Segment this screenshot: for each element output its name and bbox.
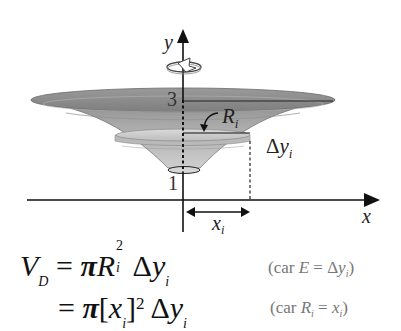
x-axis-label: x — [362, 205, 371, 228]
note-open: (car — [270, 298, 301, 317]
radius-scripts: 2i — [115, 256, 125, 276]
pi-symbol: π — [82, 291, 98, 324]
pi-symbol: π — [80, 249, 96, 282]
y-var: y — [152, 249, 165, 282]
delta-symbol: Δ — [266, 134, 280, 158]
bracket-close: ] — [126, 291, 136, 324]
tick-label-1: 1 — [168, 172, 178, 195]
thickness-label: Δyi — [266, 134, 292, 162]
y-axis-arrow-icon — [177, 29, 189, 43]
y-axis-label: y — [164, 31, 173, 54]
solid-of-revolution-figure: y x 3 1 Ri Δyi xi VD = πR2i Δyi (car E =… — [0, 0, 401, 331]
note-close: ) — [342, 298, 348, 317]
note-close: ) — [348, 258, 354, 277]
delta-symbol: Δ — [150, 291, 169, 324]
y-sub: i — [183, 316, 187, 331]
equation-line-2: = π[xi]2 Δyi — [58, 291, 187, 331]
note-var: E — [299, 258, 309, 277]
bracket-open: [ — [99, 291, 109, 324]
y-var: y — [170, 291, 183, 324]
radius-sup: 2 — [116, 238, 123, 254]
note-var: R — [301, 298, 311, 317]
thickness-sub: i — [289, 146, 293, 161]
volume-sub: D — [38, 274, 48, 289]
radius-label: Ri — [222, 104, 238, 132]
equals-sign: = — [56, 249, 73, 282]
radius-var: R — [222, 104, 235, 128]
xi-label: xi — [212, 212, 224, 238]
thickness-var: y — [280, 134, 289, 158]
tick-label-3: 3 — [167, 88, 177, 111]
note-y: y — [338, 258, 346, 277]
note-eq: = Δ — [309, 258, 338, 277]
radius-sub: i — [235, 116, 239, 131]
equation-note-2: (car Ri = xi) — [270, 298, 348, 319]
y-sub: i — [165, 274, 169, 289]
radius-sub: i — [116, 260, 120, 276]
equals-sign: = — [58, 291, 75, 324]
note-open: (car — [268, 258, 299, 277]
x-axis — [27, 193, 380, 207]
equation-line-1: VD = πR2i Δyi — [20, 249, 169, 290]
radius-var: R — [97, 249, 115, 282]
delta-symbol: Δ — [133, 249, 152, 282]
rotation-icon — [167, 58, 201, 74]
x-var: x — [109, 291, 122, 324]
xi-sub: i — [221, 223, 224, 237]
square-sup: 2 — [136, 294, 145, 313]
note-eq: = — [314, 298, 332, 317]
xi-var: x — [212, 212, 221, 234]
volume-var: V — [20, 249, 38, 282]
equation-note-1: (car E = Δyi) — [268, 258, 354, 279]
